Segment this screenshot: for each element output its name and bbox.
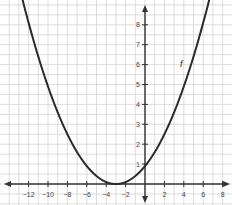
chart: −12−10−8−6−4−2246812345678 f [0, 0, 232, 205]
x-tick-label: −8 [63, 191, 71, 198]
x-tick-label: 4 [182, 191, 186, 198]
x-tick-label: 8 [221, 191, 225, 198]
grid [0, 0, 232, 205]
x-tick-label: 2 [162, 191, 166, 198]
y-tick-label: 7 [136, 41, 140, 48]
y-tick-label: 8 [136, 21, 140, 28]
y-tick-label: 1 [136, 161, 140, 168]
y-tick-label: 3 [136, 121, 140, 128]
x-axis-right-arrow-icon [223, 181, 230, 187]
y-axis-up-arrow-icon [142, 5, 148, 12]
x-axis-left-arrow-icon [4, 181, 11, 187]
y-tick-label: 5 [136, 81, 140, 88]
curve-label: f [180, 59, 184, 69]
x-tick-label: −2 [122, 191, 130, 198]
y-tick-label: 4 [136, 101, 140, 108]
y-axis-down-arrow-icon [142, 196, 148, 203]
x-tick-label: −12 [23, 191, 35, 198]
y-tick-label: 6 [136, 61, 140, 68]
x-tick-label: −6 [83, 191, 91, 198]
tick-labels: −12−10−8−6−4−2246812345678 [23, 21, 225, 198]
x-tick-label: −10 [42, 191, 54, 198]
y-tick-label: 2 [136, 141, 140, 148]
x-tick-label: −4 [102, 191, 110, 198]
coordinate-plane: −12−10−8−6−4−2246812345678 f [0, 0, 232, 205]
x-tick-label: 6 [201, 191, 205, 198]
